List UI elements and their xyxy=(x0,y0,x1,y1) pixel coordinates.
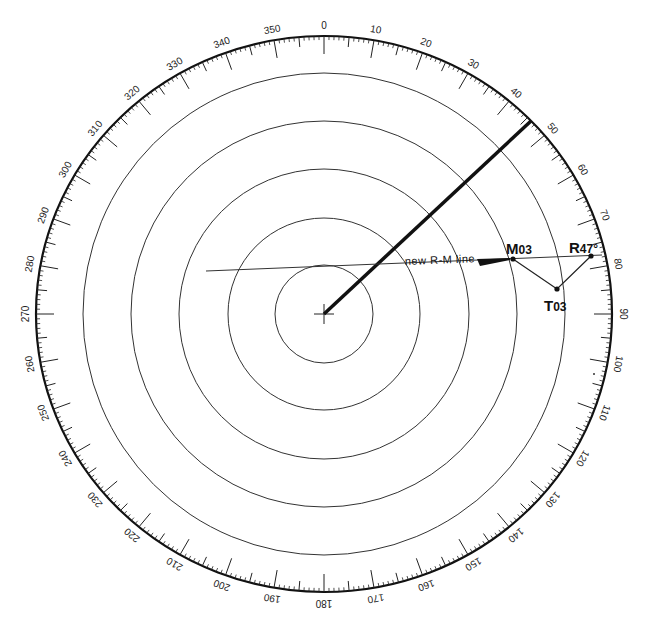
bearing-tick xyxy=(107,132,110,135)
bearing-tick xyxy=(40,359,58,362)
bearing-tick xyxy=(416,53,422,70)
bearing-label: 180 xyxy=(315,598,332,609)
bearing-tick xyxy=(371,40,374,58)
bearing-tick xyxy=(364,585,365,589)
bearing-tick xyxy=(113,124,116,127)
radar-plotting-diagram: 0102030405060708090100110120130140150160… xyxy=(0,0,645,629)
bearing-tick xyxy=(100,486,103,489)
bearing-tick xyxy=(545,139,548,142)
bearing-label: 30 xyxy=(466,56,482,71)
bearing-label: 270 xyxy=(20,305,31,322)
bearing-tick xyxy=(559,467,562,469)
bearing-tick xyxy=(601,290,611,291)
bearing-label: 140 xyxy=(506,526,526,545)
bearing-tick xyxy=(117,121,120,124)
bearing-tick xyxy=(53,403,70,409)
bearing-label: 220 xyxy=(122,526,142,545)
bearing-tick xyxy=(124,114,127,117)
bearing-tick xyxy=(128,111,131,114)
bearing-tick xyxy=(151,533,153,536)
stray-mark xyxy=(593,373,595,375)
bearing-tick xyxy=(551,147,554,149)
bearing-label: 280 xyxy=(23,254,37,273)
rm-line-thickening xyxy=(477,258,510,266)
bearing-label: 320 xyxy=(122,83,142,102)
bearing-tick xyxy=(416,558,422,575)
bearing-tick xyxy=(503,527,506,530)
bearing-tick xyxy=(124,511,127,514)
bearing-tick xyxy=(576,197,585,201)
bearing-tick xyxy=(40,266,58,269)
bearing-tick xyxy=(75,444,91,453)
plot-triangle xyxy=(513,256,591,289)
bearing-tick xyxy=(601,337,611,338)
bearing-tick xyxy=(131,107,134,110)
bearing-label: 70 xyxy=(598,208,612,223)
bearing-tick xyxy=(113,501,116,504)
bearing-label: 260 xyxy=(23,355,37,374)
bearing-tick xyxy=(249,45,252,55)
bearing-tick xyxy=(117,504,120,507)
bearing-tick xyxy=(202,557,206,566)
bearing-label: 160 xyxy=(416,578,436,594)
bearing-tick xyxy=(514,518,517,521)
bearing-tick xyxy=(299,581,300,591)
bearing-tick xyxy=(554,151,557,153)
bearing-label: 40 xyxy=(508,85,524,101)
bearing-tick xyxy=(483,86,489,94)
bearing-tick xyxy=(147,530,149,533)
bearing-tick xyxy=(143,98,146,101)
bearing-tick xyxy=(498,513,510,527)
bearing-tick xyxy=(53,219,70,225)
bearing-tick xyxy=(103,135,117,147)
bearing-tick xyxy=(225,53,231,70)
plot-point-t03 xyxy=(554,286,559,291)
bearing-label: 230 xyxy=(85,490,104,510)
bearing-tick xyxy=(590,266,608,269)
bearing-tick xyxy=(495,92,497,95)
bearing-tick xyxy=(155,536,157,539)
bearing-tick xyxy=(85,467,88,469)
bearing-label: 110 xyxy=(597,403,613,422)
bearing-tick xyxy=(94,479,97,481)
bearing-label: 290 xyxy=(35,205,51,225)
bearing-tick xyxy=(63,197,72,201)
bearing-tick xyxy=(545,486,548,489)
bearing-tick xyxy=(225,558,231,575)
bearing-tick xyxy=(274,570,277,588)
bearing-tick xyxy=(514,107,517,110)
bearing-tick xyxy=(538,494,541,497)
point-label-r47: R47° xyxy=(569,239,598,256)
bearing-label: 100 xyxy=(612,355,626,374)
bearing-tick xyxy=(499,530,501,533)
bearing-tick xyxy=(510,104,513,107)
bearing-tick xyxy=(85,159,88,161)
bearing-tick xyxy=(75,175,91,184)
bearing-tick xyxy=(202,62,206,71)
bearing-tick xyxy=(532,124,535,127)
bearing-tick xyxy=(491,536,493,539)
bearing-tick xyxy=(396,45,399,55)
bearing-tick xyxy=(103,481,117,493)
bearing-tick xyxy=(88,468,96,474)
point-label-t03: T03 xyxy=(544,297,567,314)
bearing-tick xyxy=(131,518,134,521)
bearing-tick xyxy=(535,128,538,131)
bearing-tick xyxy=(110,497,113,500)
bearing-label: 20 xyxy=(419,35,434,49)
bearing-label: 150 xyxy=(463,555,483,573)
bearing-label: 80 xyxy=(612,257,625,270)
bearing-tick xyxy=(371,570,374,588)
bearing-tick xyxy=(538,132,541,135)
bearing-tick xyxy=(605,352,609,353)
bearing-tick xyxy=(46,242,56,245)
bearing-tick xyxy=(91,151,94,153)
bearing-tick xyxy=(151,92,153,95)
bearing-tick xyxy=(110,128,113,131)
bearing-tick xyxy=(135,521,138,524)
bearing-tick xyxy=(46,383,56,386)
bearing-tick xyxy=(91,475,94,477)
bearing-tick xyxy=(284,39,285,43)
bearing-label: 50 xyxy=(545,120,561,136)
bearing-tick xyxy=(139,513,151,527)
